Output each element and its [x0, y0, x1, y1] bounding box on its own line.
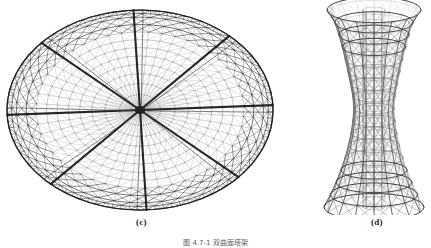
figure-caption: 图 4.7-1 双曲面塔架	[0, 238, 431, 248]
dome-wireframe-svg	[0, 0, 290, 215]
panel-label-d: (d)	[371, 217, 383, 227]
dome-lattice-group	[7, 10, 273, 210]
tower-lattice-group	[324, 0, 424, 215]
dome-figure-panel	[0, 0, 290, 215]
figure-plate: (c) (d) 图 4.7-1 双曲面塔架	[0, 0, 431, 248]
tower-figure-panel	[318, 0, 431, 215]
panel-label-c: (c)	[136, 217, 147, 227]
tower-wireframe-svg	[318, 0, 431, 215]
